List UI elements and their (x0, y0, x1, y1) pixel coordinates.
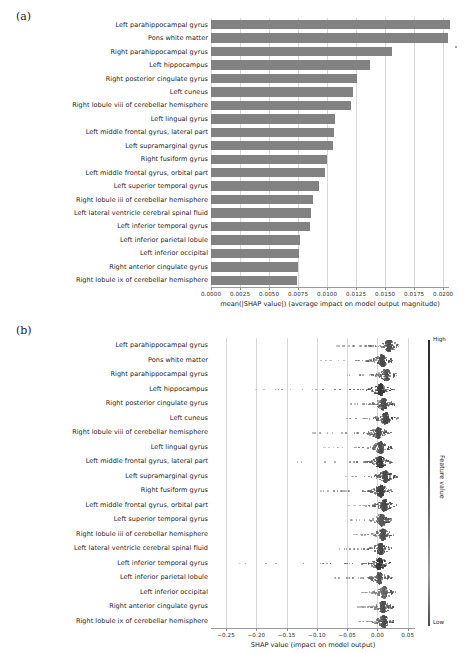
panel-b-data-point (396, 504, 398, 506)
panel-b-data-point (374, 592, 376, 594)
panel-b-category-label: Left hippocampus (149, 385, 208, 393)
panel-b-data-point (381, 523, 383, 525)
panel-b-data-point (355, 360, 356, 361)
panel-a-bar (211, 33, 448, 42)
panel-b-data-point (380, 552, 381, 553)
panel-b-category-label: Right parahippocampal gyrus (111, 370, 208, 378)
panel-b-data-point (386, 590, 387, 591)
panel-b-data-point (372, 491, 373, 492)
panel-b-data-point (324, 461, 326, 463)
panel-b-data-point (353, 461, 354, 462)
panel-b-data-point (349, 548, 351, 550)
panel-b-data-point (374, 444, 376, 446)
panel-b-data-point (351, 403, 352, 404)
panel-b-data-point (380, 444, 382, 446)
panel-b-data-point (382, 624, 383, 625)
panel-a-x-tick-label: 0.0100 (317, 291, 337, 297)
panel-b-category-label: Right lobule ix of cerebellar hemisphere (76, 617, 208, 625)
panel-b-data-point (381, 525, 383, 527)
panel-b-x-tick-label: 0.05 (401, 632, 414, 638)
panel-b-data-point (368, 433, 369, 434)
panel-b-data-point (382, 538, 384, 540)
panel-a-bar (211, 87, 353, 96)
panel-b-data-point (389, 375, 391, 377)
panel-b-data-point (387, 404, 389, 406)
panel-b-data-point (367, 606, 369, 608)
panel-a-category-label: Left middle frontal gyrus, lateral part (86, 128, 208, 136)
panel-b-data-point (383, 401, 384, 402)
panel-b-data-point (378, 476, 380, 478)
colorbar-title: Feature value (438, 455, 446, 499)
panel-b-beeswarm-chart: −0.25−0.20−0.15−0.10−0.050.000.05SHAP va… (0, 330, 466, 654)
panel-b-data-point (384, 471, 385, 472)
colorbar-low-label: Low (433, 619, 444, 625)
panel-b-data-point (301, 461, 302, 462)
panel-b-category-label: Left lingual gyrus (151, 443, 208, 451)
panel-a-bar (211, 249, 299, 258)
panel-b-data-point (346, 418, 347, 419)
panel-b-data-point (379, 538, 380, 539)
panel-b-data-point (386, 491, 387, 492)
panel-b-category-label: Left inferior parietal lobule (120, 573, 208, 581)
panel-b-data-point (353, 548, 355, 550)
panel-a-category-label: Left lateral ventricle cerebral spinal f… (74, 209, 208, 217)
panel-b-data-point (379, 545, 381, 547)
panel-b-data-point (379, 433, 380, 434)
panel-b-data-point (388, 347, 389, 348)
panel-b-x-tick-label: −0.15 (278, 632, 296, 638)
panel-b-category-label: Left inferior temporal gyrus (117, 559, 208, 567)
panel-b-data-point (374, 534, 376, 536)
panel-b-category-label: Pons white matter (148, 356, 208, 364)
panel-a-bar (211, 222, 310, 231)
panel-b-data-point (320, 360, 321, 361)
panel-b-data-point (375, 580, 376, 581)
panel-b-data-point (335, 577, 337, 579)
panel-b-data-point (381, 626, 383, 628)
panel-b-data-point (385, 489, 386, 490)
panel-b-data-point (371, 476, 373, 478)
panel-b-data-point (377, 388, 378, 389)
panel-b-data-point (376, 419, 377, 420)
panel-b-data-point (345, 432, 347, 434)
panel-b-data-point (385, 535, 386, 536)
panel-a-bar (211, 181, 319, 190)
panel-b-data-point (377, 521, 378, 522)
panel-b-data-point (385, 607, 386, 608)
panel-a-category-label: Right parahippocampal gyrus (111, 48, 208, 56)
panel-b-data-point (358, 447, 359, 448)
panel-a-bar (211, 47, 392, 56)
panel-b-data-point (387, 610, 388, 611)
panel-b-data-point (372, 345, 373, 346)
panel-b-data-point (362, 490, 363, 491)
panel-a-bar (211, 114, 335, 123)
panel-b-category-label: Left superior temporal gyrus (114, 515, 208, 523)
panel-b-data-point (377, 362, 379, 364)
panel-b-data-point (391, 361, 392, 362)
panel-b-data-point (378, 546, 379, 547)
panel-b-data-point (387, 378, 388, 379)
panel-b-data-point (381, 522, 382, 523)
panel-b-data-point (384, 574, 385, 575)
panel-b-data-point (387, 374, 388, 375)
panel-b-data-point (369, 434, 371, 436)
panel-b-data-point (346, 563, 347, 564)
panel-b-data-point (349, 490, 350, 491)
panel-b-data-point (363, 621, 364, 622)
panel-b-data-point (367, 447, 369, 449)
panel-b-data-point (371, 490, 372, 491)
panel-b-data-point (357, 432, 359, 434)
panel-b-data-point (364, 519, 366, 521)
panel-b-data-point (373, 561, 375, 563)
panel-b-data-point (382, 553, 384, 555)
panel-b-data-point (383, 458, 385, 460)
panel-a-bar (211, 128, 334, 137)
panel-b-data-point (352, 345, 354, 347)
panel-b-category-label: Left middle frontal gyrus, lateral part (86, 457, 208, 465)
panel-b-data-point (379, 446, 380, 447)
panel-b-data-point (380, 567, 381, 568)
panel-b-data-point (388, 576, 390, 578)
panel-b-data-point (357, 548, 359, 550)
panel-a-bar (211, 60, 370, 69)
panel-a-gridline (211, 18, 212, 287)
panel-b-data-point (383, 621, 384, 622)
